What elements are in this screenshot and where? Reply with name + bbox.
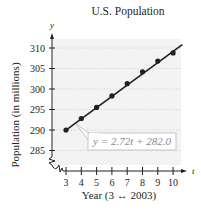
data-point: [109, 93, 114, 98]
y-tick-label: 285: [30, 145, 45, 156]
x-axis-label: Year (3 ↔ 2003): [82, 189, 157, 202]
x-tick-label: 7: [125, 177, 130, 188]
x-axis-variable: t: [192, 166, 195, 176]
equation-label: y = 2.72t + 282.0: [92, 135, 171, 147]
population-chart: U.S. Population Population (in millions)…: [0, 0, 201, 216]
y-tick-label: 290: [30, 125, 45, 136]
data-point: [125, 81, 130, 86]
y-axis-label: Population (in millions): [9, 62, 22, 167]
data-point: [171, 50, 176, 55]
x-axis-arrow-icon: [181, 169, 187, 173]
y-tick-label: 295: [30, 104, 45, 115]
data-point: [79, 116, 84, 121]
y-axis-arrow-icon: [50, 33, 54, 39]
data-point: [140, 69, 145, 74]
x-tick-label: 4: [79, 177, 84, 188]
x-tick-label: 8: [140, 177, 145, 188]
x-tick-label: 5: [94, 177, 99, 188]
y-axis-variable: y: [49, 20, 54, 30]
x-tick-label: 9: [155, 177, 160, 188]
y-ticks: 285290295300305310: [30, 43, 55, 157]
data-point: [94, 105, 99, 110]
x-tick-label: 10: [168, 177, 178, 188]
x-tick-label: 6: [109, 177, 114, 188]
y-tick-label: 310: [30, 43, 45, 54]
data-point: [63, 127, 68, 132]
y-tick-label: 300: [30, 84, 45, 95]
data-point: [155, 59, 160, 64]
chart-title: U.S. Population: [91, 5, 164, 18]
y-tick-label: 305: [30, 63, 45, 74]
x-ticks: 345678910: [64, 167, 179, 188]
x-tick-label: 3: [64, 177, 69, 188]
